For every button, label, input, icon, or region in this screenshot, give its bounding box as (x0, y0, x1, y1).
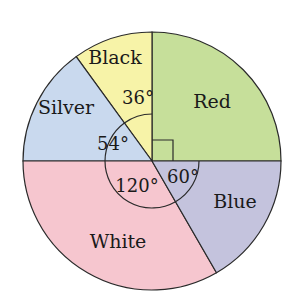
angle-label-black: 36° (122, 87, 154, 108)
angle-label-white: 120° (115, 175, 158, 196)
slice-label-black: Black (88, 46, 142, 68)
pie-slices (23, 32, 281, 290)
slice-label-red: Red (193, 90, 231, 112)
angle-label-silver: 54° (97, 133, 129, 154)
angle-label-blue: 60° (167, 166, 199, 187)
pie-chart: RedBlack36°Silver54°White120°Blue60° (0, 0, 299, 299)
slice-label-blue: Blue (213, 190, 257, 212)
slice-label-white: White (90, 230, 147, 252)
slice-label-silver: Silver (38, 96, 95, 118)
